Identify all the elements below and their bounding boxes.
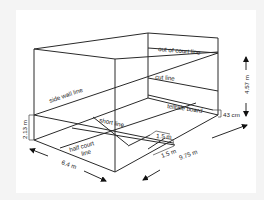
side-wall-line-label: side wall line <box>48 86 84 104</box>
court-width-label: 6.4 m <box>61 158 78 170</box>
arrow-left-icon <box>30 149 48 156</box>
court-length-label: 9.75 m <box>178 148 198 161</box>
back-wall-height-label: 2.13 m <box>21 120 28 139</box>
cut-line-label: cut line <box>155 73 176 82</box>
arrow-down-left-icon <box>143 170 160 180</box>
arrow-right-icon <box>84 171 106 181</box>
telltale-board-label: telltale board <box>167 102 204 114</box>
arrow-up-right-icon <box>212 125 247 138</box>
squash-court-diagram: out of court line cut line telltale boar… <box>0 0 264 200</box>
service-box-width-label: 1.5 m <box>160 147 177 159</box>
short-line-label: short line <box>99 116 126 128</box>
wall-height-label: 4.57 m <box>243 75 250 94</box>
service-box-depth-label: 1.5 m <box>156 132 172 140</box>
half-court-label-2: line <box>80 147 92 157</box>
telltale-height-label: 43 cm <box>223 111 240 118</box>
